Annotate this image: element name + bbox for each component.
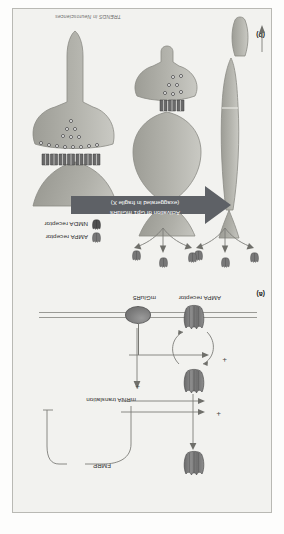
mglur5-stem-connector [138,323,139,355]
ampa-receptor-icon-floating [250,252,259,263]
legend-label-nmda: NMDA receptor [44,221,88,228]
panel-b: (b) [12,8,271,264]
receptor-loss-arrows-left [195,228,257,258]
synaptic-vesicle [63,145,67,149]
filopodium-distal-segment [227,14,253,56]
synaptic-vesicle [87,144,91,148]
synaptic-vesicle [71,145,75,149]
gp1-mglur-activation-text-line2: (exaggerated in fragile X) [77,199,213,207]
synaptic-vesicle [65,127,69,131]
synaptic-vesicle [167,83,171,87]
synaptic-vesicle [175,83,179,87]
synaptic-vesicle [39,141,43,145]
panel-a-letter: (a) [256,291,265,298]
journal-watermark: TRENDS in Neurosciences [55,14,121,20]
legend-label-ampa: AMPA receptor [46,234,88,241]
mglur5-label: mGluR5 [133,295,156,302]
synaptic-vesicle [69,135,73,139]
panel-a: (a) mGluR5 AMPA receptor [12,267,271,512]
ampa-receptor-icon-legend [92,232,101,243]
ampa-receptor-label: AMPA receptor [179,295,221,302]
figure-frame: (a) mGluR5 AMPA receptor [12,8,272,513]
ampa-receptor-icon-new [183,450,205,476]
mglur5-receptor-icon [125,306,151,324]
translation-to-receptor-arrows [121,395,211,417]
gp1-mglur-activation-text-line1: Activation of Gp1 mGluRs [77,209,213,217]
plus-sign-translation: + [216,409,221,417]
synaptic-vesicle [55,144,59,148]
nmda-receptor-icon-legend [92,219,101,230]
synaptic-vesicle [171,75,175,79]
synaptic-vesicle [73,127,77,131]
elongation-direction-arrow [257,24,267,52]
ampa-receptor-icon-floating [221,257,230,268]
plus-sign-mglur5-translation: + [135,382,140,390]
synaptic-vesicle [163,91,167,95]
synaptic-vesicle [79,145,83,149]
ampa-receptor-icon-floating [188,252,197,263]
synaptic-vesicle [77,135,81,139]
ampa-receptor-icon-floating [159,257,168,268]
synaptic-vesicle [171,92,175,96]
ampa-receptor-icon-floating [132,250,141,261]
psd-receptor-band-intermediate [153,99,185,112]
synaptic-vesicle [95,143,99,147]
synaptic-vesicle [179,90,183,94]
plus-sign-internalization: + [222,355,227,363]
synaptic-vesicle [69,119,73,123]
synaptic-vesicle [47,143,51,147]
scanned-figure-page: (a) mGluR5 AMPA receptor [0,0,284,534]
receptor-loss-arrows-right [133,228,195,258]
synaptic-vesicle [61,134,65,138]
synaptic-vesicle [179,74,183,78]
mglur5-to-internalization-arrow [129,348,215,362]
figure-rotation-wrapper: (a) mGluR5 AMPA receptor [12,8,272,513]
psd-receptor-band-mature [35,153,101,166]
